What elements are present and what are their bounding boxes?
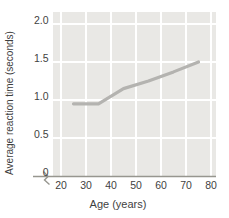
x-tick-label-80: 80 [205,179,217,191]
y-axis-title: Average reaction time (seconds) [4,31,15,175]
x-tick-label-40: 40 [105,179,117,191]
x-tick-label-60: 60 [155,179,167,191]
x-tick-label-50: 50 [130,179,142,191]
y-tick-label-1.0: 1.0 [34,90,49,102]
y-tick-label-0: 0 [43,166,49,178]
y-tick-label-0.5: 0.5 [34,128,49,140]
y-tick-label-2.0: 2.0 [34,14,49,26]
x-axis-title: Age (years) [90,198,147,210]
chart-canvas: 203040506070802.01.51.00.50 Average reac… [0,0,229,218]
x-tick-label-20: 20 [55,179,67,191]
x-tick-label-70: 70 [180,179,192,191]
x-tick-label-30: 30 [80,179,92,191]
y-tick-label-1.5: 1.5 [34,52,49,64]
plot-area [53,12,216,176]
reaction-time-chart: 203040506070802.01.51.00.50 Average reac… [0,0,229,218]
